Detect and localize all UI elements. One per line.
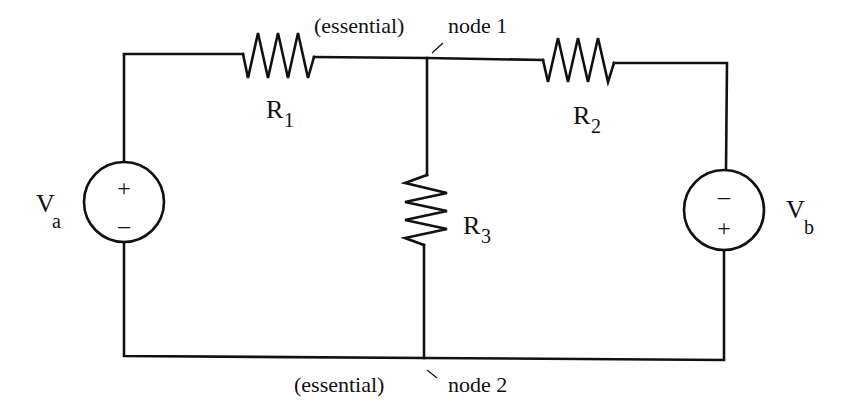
node1-qualifier: (essential)	[314, 13, 404, 38]
node2-name: node 2	[448, 372, 507, 397]
node1-leader-line	[432, 43, 443, 53]
vb-label: V	[786, 195, 805, 224]
r3-subscript: 3	[481, 225, 491, 247]
resistor-r2	[543, 38, 614, 82]
vb-plus-sign: +	[717, 215, 731, 241]
r3-label: R	[463, 211, 481, 240]
r1-subscript: 1	[284, 109, 294, 131]
resistor-r1	[243, 33, 314, 78]
voltage-source-vb: – +	[684, 170, 764, 250]
node2-leader-line	[427, 370, 437, 378]
vb-subscript: b	[804, 216, 814, 238]
circuit-diagram: + – V a – + V b R 1 R 2 R 3 (essential) …	[0, 0, 848, 419]
resistor-r3	[405, 175, 447, 245]
node2-qualifier: (essential)	[294, 372, 384, 397]
r1-label: R	[266, 95, 284, 124]
r2-subscript: 2	[591, 115, 601, 137]
va-minus-sign: –	[117, 212, 131, 238]
voltage-source-va: + –	[84, 162, 164, 242]
wire-left-top	[124, 54, 243, 162]
va-plus-sign: +	[117, 175, 131, 201]
wire-top-middle	[314, 57, 543, 60]
wire-right-top	[614, 63, 727, 170]
r2-label: R	[573, 101, 591, 130]
vb-minus-sign: –	[717, 183, 731, 209]
node1-name: node 1	[448, 13, 507, 38]
va-subscript: a	[52, 210, 61, 232]
